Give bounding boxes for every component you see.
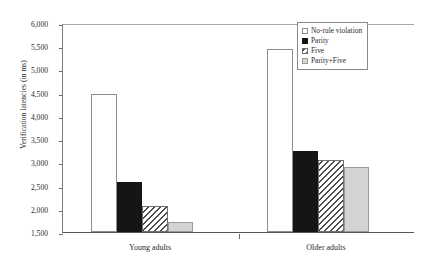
- y-axis-tick-label: 2,500: [4, 184, 48, 192]
- y-axis-tick: [59, 118, 63, 119]
- legend-swatch-white: [302, 28, 308, 34]
- y-axis-tick-label: 6,000: [4, 21, 48, 29]
- legend-label: No-rule violation: [311, 27, 362, 34]
- y-axis-tick-label: 4,000: [4, 114, 48, 122]
- legend-swatch-hatch: [302, 48, 308, 54]
- y-axis-tick-label: 4,500: [4, 91, 48, 99]
- legend-label: Parity: [311, 37, 329, 44]
- bar-older-adults-no-rule-violation: [267, 49, 293, 232]
- chart-figure: Verification latencies (in ms) 6,0005,50…: [0, 0, 423, 277]
- x-axis-label-young-adults: Young adults: [62, 243, 238, 252]
- legend-item: Parity: [302, 36, 362, 46]
- legend-label: Five: [311, 47, 324, 54]
- y-axis-tick: [59, 48, 63, 49]
- y-axis-tick: [59, 71, 63, 72]
- y-axis-tick: [59, 95, 63, 96]
- y-axis-tick: [59, 234, 63, 235]
- bar-young-adults-parity-five: [168, 222, 194, 232]
- y-axis-tick-label: 5,500: [4, 44, 48, 52]
- bar-young-adults-five: [142, 206, 168, 232]
- y-axis-tick-label: 5,000: [4, 67, 48, 75]
- legend-swatch-gray: [302, 58, 308, 64]
- legend-label: Parity+Five: [311, 57, 346, 64]
- legend-item: Parity+Five: [302, 56, 362, 66]
- legend-item: Five: [302, 46, 362, 56]
- y-axis-tick: [59, 188, 63, 189]
- bar-older-adults-parity: [293, 151, 319, 232]
- bar-older-adults-five: [318, 160, 344, 232]
- x-axis-group-separator-tick: [239, 234, 240, 239]
- legend-item: No-rule violation: [302, 26, 362, 36]
- bar-young-adults-parity: [117, 182, 143, 232]
- y-axis-tick-label: 3,000: [4, 160, 48, 168]
- y-axis-tick: [59, 25, 63, 26]
- y-axis-tick-label: 2,000: [4, 207, 48, 215]
- legend-swatch-black: [302, 38, 308, 44]
- y-axis-tick: [59, 211, 63, 212]
- bar-older-adults-parity-five: [344, 167, 370, 232]
- x-axis-label-older-adults: Older adults: [238, 243, 414, 252]
- y-axis-tick: [59, 141, 63, 142]
- y-axis-tick: [59, 164, 63, 165]
- bar-young-adults-no-rule-violation: [91, 94, 117, 232]
- chart-legend: No-rule violationParityFiveParity+Five: [297, 22, 368, 70]
- y-axis-tick-label: 1,500: [4, 230, 48, 238]
- y-axis-tick-label: 3,500: [4, 137, 48, 145]
